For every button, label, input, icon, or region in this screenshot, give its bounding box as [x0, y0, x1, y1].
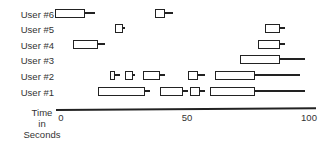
segment-box — [188, 71, 198, 80]
segment-box — [73, 40, 98, 49]
segment-tail — [183, 90, 188, 91]
segment-box — [115, 24, 123, 33]
segment-box — [160, 87, 183, 96]
segment-box — [258, 40, 281, 49]
segment-box — [215, 71, 255, 80]
segment-tail — [255, 90, 305, 91]
segment-tail — [85, 12, 95, 13]
segment-tail — [280, 43, 285, 44]
row-label-user-6: User #6 — [21, 9, 54, 20]
segment-box — [143, 71, 161, 80]
segment-tail — [123, 27, 126, 28]
segment-box — [155, 9, 165, 18]
row-label-user-5: User #5 — [21, 24, 54, 35]
segment-tail — [280, 58, 305, 59]
segment-tail — [115, 74, 120, 75]
segment-box — [55, 9, 85, 18]
segment-box — [98, 87, 146, 96]
segment-tail — [160, 74, 165, 75]
row-label-user-1: User #1 — [21, 87, 54, 98]
segment-tail — [280, 27, 285, 28]
x-axis-title-line-1: Time — [20, 107, 64, 118]
segment-box — [125, 71, 133, 80]
segment-tail — [98, 43, 106, 44]
segment-tail — [133, 74, 136, 75]
segment-tail — [198, 74, 206, 75]
row-label-user-2: User #2 — [21, 71, 54, 82]
segment-tail — [200, 90, 205, 91]
segment-box — [190, 87, 200, 96]
segment-box — [240, 55, 280, 64]
row-label-user-3: User #3 — [21, 55, 54, 66]
x-axis-title: Time in Seconds — [20, 107, 64, 140]
segment-box — [110, 71, 115, 80]
x-axis-title-line-3: Seconds — [20, 129, 64, 140]
segment-tail — [165, 12, 173, 13]
segment-tail — [255, 74, 300, 75]
row-label-user-4: User #4 — [21, 40, 54, 51]
segment-box — [265, 24, 280, 33]
x-axis-title-line-2: in — [20, 118, 64, 129]
x-tick-50: 50 — [182, 112, 193, 123]
x-tick-100: 100 — [301, 112, 317, 123]
segment-tail — [145, 90, 150, 91]
gantt-chart: User #6 User #5 User #4 User #3 User #2 … — [0, 0, 329, 143]
segment-box — [210, 87, 255, 96]
x-axis-line — [56, 107, 316, 110]
